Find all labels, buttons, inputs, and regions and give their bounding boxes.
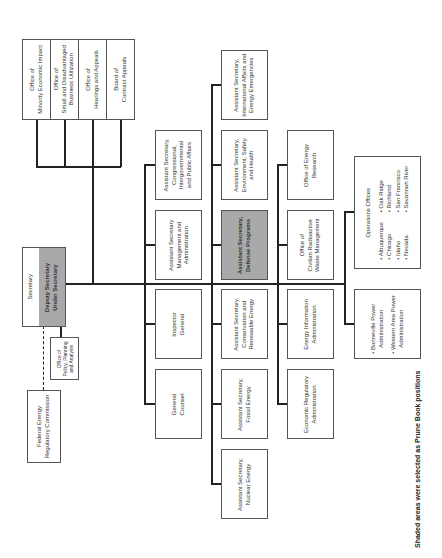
connector [277,244,287,246]
secretary-box: Secretary Deputy SecretaryUnder Secretar… [22,247,66,327]
connector [64,119,66,167]
connector [211,164,221,166]
connector [144,164,155,166]
asst-sec-nuclear-energy: Assistant Secretary,Nuclear Energy [221,449,268,519]
connector [277,164,279,404]
connector [92,119,94,284]
asst-sec-congressional-affairs: Assistant Secretary,Congressional,Interg… [155,130,202,200]
power-administrations: • Bonneville Power Administration • West… [354,289,421,359]
connector [277,164,287,166]
connector [144,323,155,325]
connector [344,211,346,324]
backbone [65,283,345,285]
connector [120,119,122,167]
connector [144,164,146,404]
secretary-cell: Secretary [23,248,39,326]
connector [144,403,155,405]
connector [211,84,221,86]
asst-sec-conservation-renewable: Assistant Secretary,Conservation andRene… [221,289,268,359]
connector [277,403,287,405]
connector [344,323,354,325]
connector [36,119,38,167]
connector [211,403,221,405]
footnote: Shaded areas were selected as Prune Book… [414,371,421,548]
connector [36,166,121,168]
office-small-disadvantaged-business: Office ofSmall and DisadvantagedBusiness… [50,39,79,120]
office-minority-economic-impact: Office ofMinority Economic Impact [22,39,51,120]
energy-information-administration: Energy InformationAdministration [287,289,334,359]
board-contract-appeals: Board ofContract Appeals [106,39,135,120]
office-energy-research: Office of EnergyResearch [287,130,334,200]
asst-sec-fossil-energy: Assistant Secretary,Fossil Energy [221,369,268,439]
deputy-under-secretary-cell: Deputy SecretaryUnder Secretary [39,248,65,326]
asst-sec-international-affairs: Assistant Secretary,International Affair… [221,50,268,120]
general-counsel: GeneralCounsel [155,369,202,439]
connector [211,483,221,485]
operations-list-left: • Albuquerque • Chicago • Idaho • Nevada [376,222,410,259]
dashed-connector [43,326,44,390]
connector [144,244,155,246]
office-civilian-radioactive-waste: Office ofCivilian RadioactiveWaste Manag… [287,210,334,280]
office-hearings-appeals: Office ofHearings and Appeals [78,39,107,120]
economic-regulatory-administration: Economic RegulatoryAdministration [287,369,334,439]
connector [211,84,213,484]
inspector-general: InspectorGeneral [155,289,202,359]
connector [211,323,221,325]
asst-sec-defense-programs: Assistant Secretary,Defense Programs [221,210,268,280]
operations-list-right: • Oak Ridge • Richland • San Francisco •… [376,166,410,212]
connector [344,211,354,213]
asst-sec-environment-safety-health: Assistant Secretary,Environment, Safetya… [221,130,268,200]
connector [60,326,62,337]
asst-sec-management-administration: Assistant SecretaryManagement andAdminis… [155,210,202,280]
operations-offices: Operations Offices • Albuquerque • Chica… [354,156,421,269]
connector [277,323,287,325]
connector [211,244,221,246]
federal-energy-regulatory-commission: Federal EnergyRegulatory Commission [27,390,61,463]
office-policy-planning-analysis: Office ofPolicy, Planningand Analysis [50,337,79,380]
